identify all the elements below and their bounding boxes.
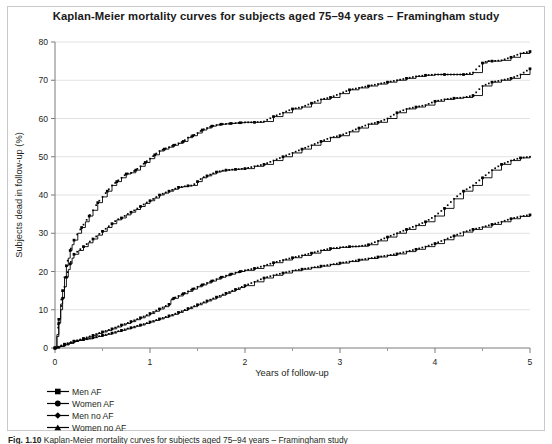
data-point-marker xyxy=(257,165,259,167)
data-point-marker xyxy=(475,69,477,71)
data-point-marker xyxy=(225,169,228,172)
data-point-marker xyxy=(158,308,161,311)
data-point-marker xyxy=(130,211,133,214)
data-point-marker xyxy=(111,328,114,331)
data-point-marker xyxy=(149,158,151,160)
data-point-marker xyxy=(333,263,335,265)
data-point-marker xyxy=(459,193,461,195)
data-point-marker xyxy=(108,329,110,331)
series-men-no-af xyxy=(54,156,531,349)
data-point-marker xyxy=(383,238,385,240)
data-point-marker xyxy=(101,230,104,233)
data-point-marker xyxy=(383,255,385,257)
data-point-marker xyxy=(168,315,171,318)
data-point-marker xyxy=(307,146,309,148)
data-point-marker xyxy=(450,74,452,76)
data-point-marker xyxy=(523,72,525,74)
data-point-marker xyxy=(450,98,452,100)
data-point-marker xyxy=(520,53,522,55)
legend-label: Women AF xyxy=(72,399,114,409)
data-point-marker xyxy=(323,98,325,100)
data-point-marker xyxy=(295,256,297,258)
data-point-marker xyxy=(421,75,423,77)
legend-item[interactable]: Women no AF xyxy=(46,422,126,433)
data-point-marker xyxy=(184,309,186,311)
data-point-marker xyxy=(485,174,487,176)
data-point-marker xyxy=(200,178,202,180)
data-point-marker xyxy=(421,222,423,224)
data-point-marker xyxy=(386,236,389,239)
data-point-marker xyxy=(162,307,164,309)
data-point-marker xyxy=(317,142,319,144)
data-point-marker xyxy=(292,152,294,154)
data-point-marker xyxy=(364,244,366,246)
data-point-marker xyxy=(434,242,437,245)
data-point-marker xyxy=(92,336,95,339)
data-point-marker xyxy=(311,144,313,146)
data-point-marker xyxy=(304,254,306,256)
data-point-marker xyxy=(323,139,325,141)
data-point-marker xyxy=(89,241,91,243)
data-point-marker xyxy=(92,238,95,241)
legend-item[interactable]: Women AF xyxy=(46,398,126,409)
kaplan-meier-plot: 01020304050607080 012345 Years of follow… xyxy=(0,0,552,380)
data-point-marker xyxy=(158,318,161,321)
data-point-marker xyxy=(342,246,344,248)
data-point-marker xyxy=(182,292,185,295)
data-point-marker xyxy=(216,124,218,126)
figure-caption: Fig. 1.10 Kaplan-Meier mortality curves … xyxy=(8,435,552,444)
data-point-marker xyxy=(57,318,60,321)
data-point-marker xyxy=(409,107,411,109)
data-point-marker xyxy=(162,193,164,195)
data-point-marker xyxy=(352,246,354,248)
data-point-marker xyxy=(241,168,243,170)
data-point-marker xyxy=(501,221,503,223)
data-point-marker xyxy=(333,136,335,138)
legend-item[interactable]: Men AF xyxy=(46,386,126,397)
data-point-marker xyxy=(234,168,237,171)
data-point-marker xyxy=(239,121,242,124)
data-point-marker xyxy=(516,216,518,218)
figure-caption-text: Kaplan-Meier mortality curves for subjec… xyxy=(44,435,348,444)
data-point-marker xyxy=(520,74,522,76)
data-point-marker xyxy=(220,123,223,126)
data-point-marker xyxy=(139,205,142,208)
data-point-marker xyxy=(279,157,281,159)
data-point-marker xyxy=(387,255,389,257)
data-point-marker xyxy=(450,236,452,238)
data-point-marker xyxy=(196,303,199,306)
data-point-marker xyxy=(269,161,271,163)
data-point-marker xyxy=(501,79,503,81)
data-point-marker xyxy=(523,215,525,217)
data-point-marker xyxy=(516,158,518,160)
data-point-marker xyxy=(425,246,427,248)
data-point-marker xyxy=(209,174,211,176)
data-point-marker xyxy=(355,260,357,262)
legend-item[interactable]: Men no AF xyxy=(46,410,126,421)
data-point-marker xyxy=(200,303,202,305)
chart-legend: Men AF Women AF Men no AF Women no AF xyxy=(46,386,126,433)
data-point-marker xyxy=(172,297,175,300)
data-point-marker xyxy=(333,95,335,97)
data-point-marker xyxy=(257,121,259,123)
data-point-marker xyxy=(450,201,452,203)
data-point-marker xyxy=(488,83,490,85)
y-tick-label: 0 xyxy=(43,343,48,353)
data-point-marker xyxy=(371,123,373,125)
data-point-marker xyxy=(497,80,499,82)
data-point-marker xyxy=(358,259,361,262)
data-point-marker xyxy=(529,50,532,53)
data-point-marker xyxy=(510,77,513,80)
data-point-marker xyxy=(197,132,199,134)
data-point-marker xyxy=(440,74,442,76)
data-point-marker xyxy=(314,143,316,145)
data-point-marker xyxy=(396,79,398,81)
data-point-marker xyxy=(282,259,284,261)
data-point-marker xyxy=(396,253,399,256)
data-point-marker xyxy=(497,60,499,62)
data-point-marker xyxy=(269,263,271,265)
y-tick-label: 70 xyxy=(38,75,48,85)
data-point-marker xyxy=(279,273,281,275)
data-point-marker xyxy=(304,268,306,270)
data-point-marker xyxy=(215,171,218,174)
